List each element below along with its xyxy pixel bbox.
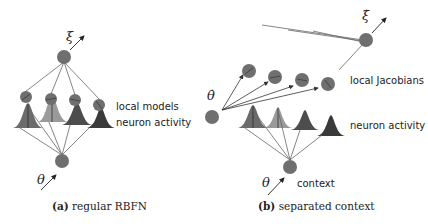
jacobian-output-edges	[262, 25, 363, 70]
diagram-canvas	[0, 0, 428, 224]
neuron-activity-label-a: neuron activity	[116, 117, 191, 128]
input-symbol-b: θ	[262, 175, 270, 190]
velocity-symbol: θ̇	[207, 88, 215, 103]
caption-b-text: separated context	[279, 200, 375, 212]
caption-a-label: (a)	[52, 200, 69, 212]
neuron-activity-label-b: neuron activity	[350, 120, 425, 131]
panel-b-separated-context	[205, 18, 386, 195]
caption-a: (a) regular RBFN	[52, 200, 147, 212]
input-symbol-a: θ	[37, 172, 45, 187]
caption-a-text: regular RBFN	[72, 200, 147, 212]
output-node-b	[359, 33, 373, 47]
caption-b-label: (b)	[258, 200, 275, 212]
local-model-nodes-a	[20, 91, 105, 111]
velocity-input-node	[205, 110, 219, 124]
local-models-label: local models	[116, 101, 179, 112]
context-label: context	[297, 178, 335, 189]
gaussians-b	[238, 105, 345, 136]
input-node-a	[55, 154, 69, 168]
caption-b: (b) separated context	[258, 200, 375, 212]
output-arrow-b	[372, 18, 386, 33]
output-symbol-a: ξ	[66, 29, 73, 44]
local-jacobian-nodes	[242, 64, 335, 91]
output-symbol-b: ξ̇	[362, 8, 369, 23]
output-node-a	[57, 50, 71, 64]
context-arrow	[268, 178, 284, 195]
panel-a-regular-rbfn	[13, 36, 115, 190]
local-jacobians-label: local Jacobians	[350, 75, 424, 86]
output-edges	[25, 62, 100, 100]
context-node	[283, 160, 297, 174]
